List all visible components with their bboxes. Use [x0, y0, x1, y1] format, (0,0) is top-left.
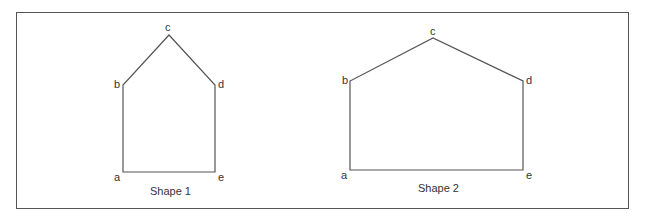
shape-1-pentagon — [123, 35, 215, 172]
shape-1-caption: Shape 1 — [150, 185, 191, 197]
vertex-b-label: b — [342, 74, 348, 86]
vertex-a-label: a — [341, 169, 348, 181]
vertex-e-label: e — [218, 171, 224, 183]
vertex-d-label: d — [526, 74, 532, 86]
vertex-e-label: e — [526, 169, 532, 181]
vertex-c-label: c — [430, 25, 436, 37]
vertex-d-label: d — [218, 78, 224, 90]
vertex-b-label: b — [114, 78, 120, 90]
shape-2-pentagon — [350, 38, 523, 170]
shape-2-caption: Shape 2 — [418, 182, 459, 194]
shape-1: a b c d e Shape 1 — [114, 21, 224, 197]
vertex-a-label: a — [114, 171, 121, 183]
vertex-c-label: c — [165, 21, 171, 33]
shape-2: a b c d e Shape 2 — [341, 25, 532, 194]
shapes-canvas: a b c d e Shape 1 a b c d e Shape 2 — [0, 0, 646, 222]
